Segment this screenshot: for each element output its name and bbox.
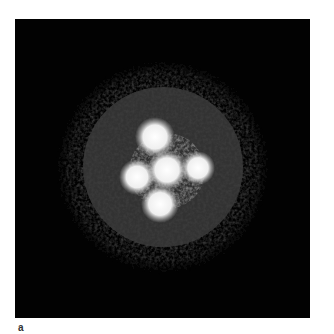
- micrograph-panel: [15, 19, 310, 318]
- spot-bottom: [141, 185, 179, 223]
- micrograph-image: [15, 19, 310, 318]
- spot-center: [147, 150, 187, 190]
- spot-right: [181, 151, 215, 185]
- panel-label: a: [18, 323, 24, 333]
